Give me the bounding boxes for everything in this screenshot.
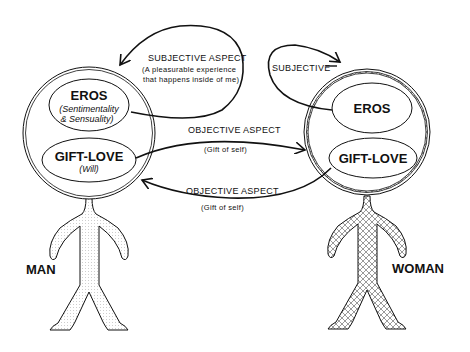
man-giftlove-title: GIFT-LOVE	[55, 149, 124, 164]
subjective-title: SUBJECTIVE	[272, 63, 331, 73]
subjective-aspect-title: SUBJECTIVE ASPECT	[148, 53, 247, 63]
woman-giftlove-title: GIFT-LOVE	[339, 151, 408, 166]
subjective-aspect-line1: (A pleasurable experience	[142, 65, 236, 74]
objective-bottom-sub: (Gift of self)	[201, 203, 244, 212]
man-body	[50, 198, 129, 330]
objective-bottom-title: OBJECTIVE ASPECT	[186, 186, 279, 196]
man-label: MAN	[26, 262, 56, 277]
objective-top-title: OBJECTIVE ASPECT	[188, 125, 281, 135]
man-giftlove-subtitle: (Will)	[79, 164, 98, 174]
woman-label: WOMAN	[392, 261, 444, 276]
woman-figure: WOMAN	[328, 196, 444, 329]
man-eros-subtitle-1: (Sentimentality	[59, 104, 119, 114]
subjective-aspect-line2: that happens inside of me)	[143, 75, 239, 84]
objective-top-sub: (Gift of self)	[204, 145, 247, 154]
man-eros-subtitle-2: & Sensuality)	[60, 114, 113, 124]
love-diagram: MAN WOMAN EROS (Sentimentality & Sensual…	[0, 0, 470, 352]
man-head: EROS (Sentimentality & Sensuality) GIFT-…	[23, 67, 155, 199]
man-figure: MAN	[26, 198, 128, 330]
woman-eros-title: EROS	[354, 101, 391, 116]
man-eros-title: EROS	[71, 88, 108, 103]
